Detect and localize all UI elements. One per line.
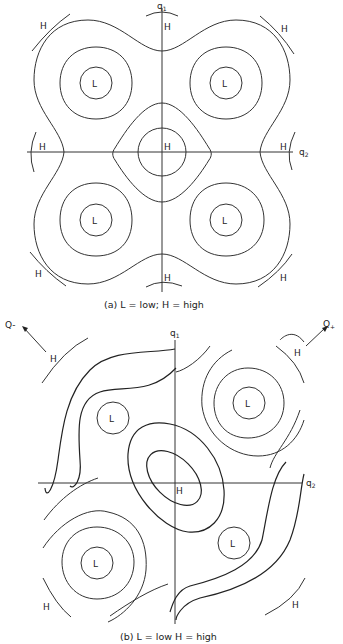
q-minus-arrow (24, 328, 46, 352)
panel-b: Q- Q+ q1 q2 L L L L H H H H H (b) L = lo… (5, 319, 335, 642)
q-minus-label: Q- (5, 320, 16, 330)
high-label-center: H (176, 486, 183, 496)
high-label: H (39, 142, 46, 152)
high-label: H (280, 142, 287, 152)
contour-top-segment (176, 346, 210, 372)
contour-right-segment (270, 410, 300, 468)
high-arc-right (289, 132, 295, 170)
low-label: L (92, 216, 97, 226)
high-label: H (281, 24, 288, 34)
low-label: L (230, 539, 235, 549)
low-label: L (93, 559, 98, 569)
low-label: L (109, 414, 114, 424)
q2-label: q2 (306, 478, 316, 489)
low-label: L (222, 79, 227, 89)
contour-lower-right-outer (176, 474, 304, 620)
high-label: H (50, 354, 57, 364)
caption-a: (a) L = low; H = high (104, 299, 204, 310)
contour-upper-left-inner (70, 368, 176, 487)
low-label: L (245, 399, 250, 409)
high-label: H (294, 348, 301, 358)
high-label: H (35, 269, 42, 279)
contour-center-outer (128, 423, 224, 532)
high-label: H (43, 602, 50, 612)
caption-b: (b) L = low H = high (120, 631, 217, 642)
low-label: L (222, 216, 227, 226)
contour-left-segment (44, 478, 98, 520)
high-arc-top-right (260, 16, 294, 54)
high-label: H (164, 273, 171, 283)
high-label-center: H (164, 142, 171, 152)
high-label: H (280, 273, 287, 283)
q1-label: q1 (157, 1, 167, 12)
potential-contour-diagram: q1 q2 L L L L H H H H H H H H H (a) L = … (0, 0, 343, 644)
q2-label: q2 (299, 147, 309, 158)
q-plus-label: Q+ (323, 319, 335, 330)
high-arc-bottom-right (258, 254, 292, 287)
panel-a: q1 q2 L L L L H H H H H H H H H (a) L = … (27, 1, 309, 310)
low-label: L (92, 79, 97, 89)
high-label: H (164, 22, 171, 32)
q1-label: q1 (170, 328, 180, 339)
high-arc-upper-left (42, 338, 88, 383)
q-plus-arrow (306, 328, 325, 346)
high-arc-top-left (32, 14, 70, 51)
high-label: H (292, 600, 299, 610)
contour-lower-right-inner (170, 462, 286, 612)
high-arc-lower-right (265, 578, 305, 615)
low-upper-right (202, 334, 304, 456)
contour-bottom-segment (110, 584, 168, 616)
contour-center-inner (137, 441, 212, 516)
high-label: H (40, 21, 47, 31)
